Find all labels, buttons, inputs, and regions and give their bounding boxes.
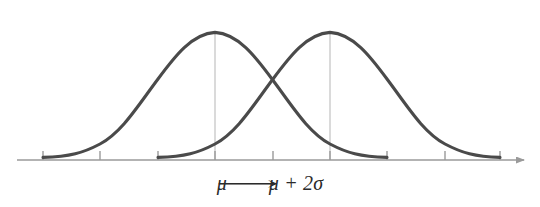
peak-guide-lines [215, 33, 330, 160]
normal-curve-mu-plus-2sigma [158, 32, 500, 157]
x-axis-ticks [43, 151, 500, 160]
plot-canvas [0, 0, 540, 207]
normal-curve-shift-figure: μ ⟶ μ + 2σ [0, 0, 540, 207]
